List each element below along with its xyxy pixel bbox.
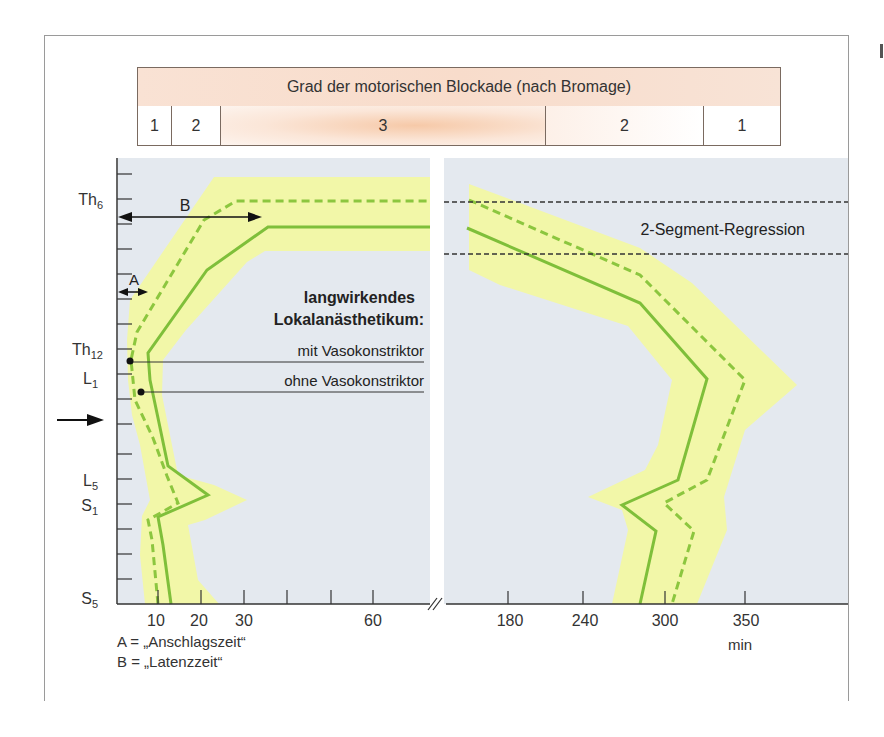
marker-b-label: B bbox=[180, 197, 191, 214]
injection-arrow-icon bbox=[57, 414, 104, 426]
annotation-ohne: ohne Vasokonstriktor bbox=[284, 372, 424, 389]
dot-ohne bbox=[138, 389, 145, 396]
x-tick-labels: 10 20 30 60 180 240 300 350 bbox=[147, 612, 759, 629]
legend-a: A = „Anschlagszeit“ bbox=[117, 632, 246, 652]
x-tick-300: 300 bbox=[652, 612, 679, 629]
dot-mit bbox=[127, 358, 134, 365]
axis-break-icon bbox=[428, 598, 442, 610]
y-label-s1: S1 bbox=[81, 497, 98, 517]
x-tick-10: 10 bbox=[147, 612, 165, 629]
y-label-th12: Th12 bbox=[72, 341, 103, 361]
x-tick-240: 240 bbox=[572, 612, 599, 629]
x-tick-30: 30 bbox=[235, 612, 253, 629]
x-tick-350: 350 bbox=[733, 612, 760, 629]
y-label-l5: L5 bbox=[83, 472, 98, 492]
y-label-s5: S5 bbox=[81, 590, 98, 610]
legend: A = „Anschlagszeit“ B = „Latenzzeit“ bbox=[117, 632, 246, 672]
block-chart: 10 20 30 60 180 240 300 350 Th6 Th12 L1 … bbox=[0, 0, 884, 737]
marker-a-label: A bbox=[129, 271, 139, 288]
annotation-mit: mit Vasokonstriktor bbox=[298, 342, 424, 359]
y-tick-labels: Th6 Th12 L1 L5 S1 S5 bbox=[72, 191, 103, 610]
annotation-regression: 2-Segment-Regression bbox=[640, 221, 805, 238]
y-label-th6: Th6 bbox=[78, 191, 103, 211]
x-tick-60: 60 bbox=[364, 612, 382, 629]
x-tick-180: 180 bbox=[497, 612, 524, 629]
x-unit-label: min bbox=[728, 636, 752, 653]
x-tick-20: 20 bbox=[190, 612, 208, 629]
annotation-title-1: langwirkendes bbox=[304, 289, 415, 306]
legend-b: B = „Latenzzeit“ bbox=[117, 652, 246, 672]
y-label-l1: L1 bbox=[83, 370, 98, 390]
annotation-title-2: Lokalanästhetikum: bbox=[274, 311, 424, 328]
